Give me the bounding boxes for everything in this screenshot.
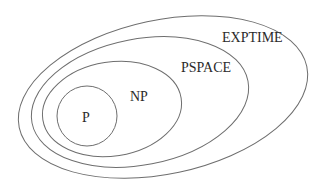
exptime-label: EXPTIME — [222, 30, 283, 45]
complexity-class-diagram: EXPTIME PSPACE NP P — [0, 0, 323, 189]
set-np: NP — [36, 52, 189, 167]
np-label: NP — [130, 89, 148, 104]
exptime-boundary — [3, 0, 323, 189]
pspace-label: PSPACE — [181, 60, 231, 75]
set-exptime: EXPTIME — [3, 0, 323, 189]
p-label: P — [82, 110, 90, 125]
set-p: P — [57, 86, 117, 146]
np-boundary — [36, 52, 189, 167]
